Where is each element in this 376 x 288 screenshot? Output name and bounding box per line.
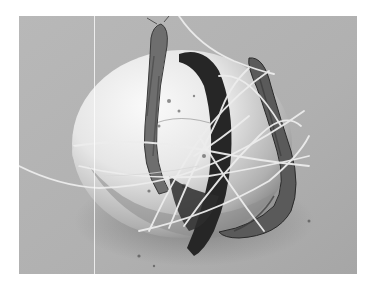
photograph: [19, 16, 357, 274]
scan-artifact-line: [94, 16, 95, 274]
egg-sculpture-image: [19, 16, 357, 274]
